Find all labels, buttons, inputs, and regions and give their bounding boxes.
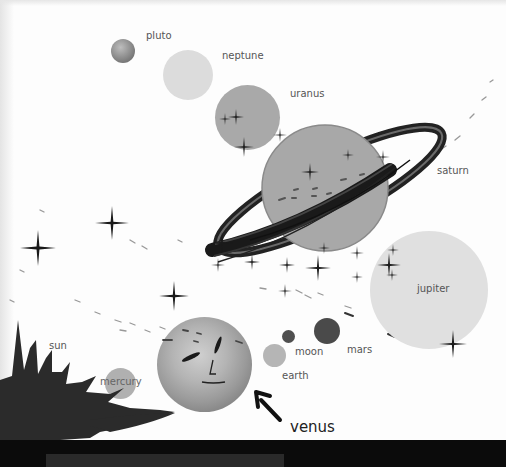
mercury-label: mercury	[100, 376, 142, 387]
uranus-label: uranus	[290, 88, 324, 99]
earth-label: earth	[282, 370, 309, 381]
neptune-label: neptune	[222, 50, 264, 61]
bottom-bar-panel	[46, 454, 284, 467]
sun-label: sun	[49, 340, 67, 351]
venus-arrow-icon	[0, 0, 506, 440]
mars-label: mars	[347, 344, 372, 355]
saturn-label: saturn	[437, 165, 469, 176]
pluto-label: pluto	[146, 30, 172, 41]
bottom-bar	[0, 440, 506, 467]
jupiter-label: jupiter	[417, 283, 449, 294]
moon-label: moon	[295, 346, 323, 357]
solar-system-illustration: pluto neptune uranus saturn jupiter mars…	[0, 0, 506, 440]
venus-label: venus	[290, 418, 335, 436]
